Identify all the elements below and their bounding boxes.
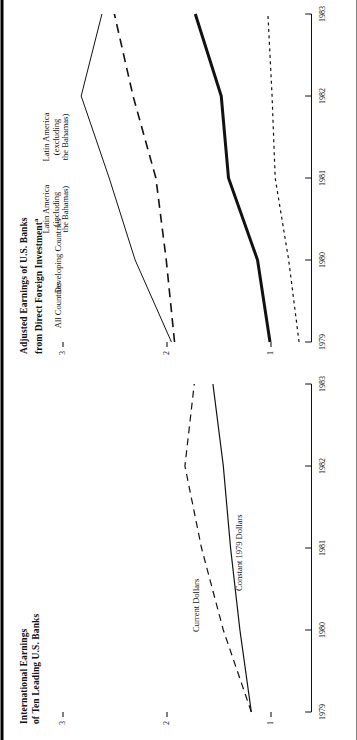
y-tick-mark — [62, 342, 63, 347]
figure-root: International Earnings of Ten Leading U.… — [0, 0, 357, 740]
x-tick-label: 1983 — [317, 376, 326, 392]
series-label-latin-america-including: Latin America (including the Bahamas) — [41, 179, 70, 239]
y-tick-label: 3 — [58, 351, 67, 355]
panel-adjusted-earnings: Adjusted Earnings of U.S. Banks from Dir… — [0, 0, 357, 370]
panel-right-title: Adjusted Earnings of U.S. Banks from Dir… — [18, 217, 44, 354]
panel-left-title: International Earnings of Ten Leading U.… — [18, 614, 41, 724]
x-tick-label: 1981 — [317, 170, 326, 186]
y-tick-mark — [270, 342, 271, 347]
plot-area-right — [62, 14, 311, 342]
y-axis-line — [62, 341, 311, 342]
x-tick-label: 1981 — [317, 540, 326, 556]
x-tick-label: 1979 — [317, 334, 326, 350]
y-tick-label: 2 — [161, 351, 170, 355]
x-tick-label: 1980 — [317, 252, 326, 268]
x-tick-label: 1979 — [317, 704, 326, 720]
y-tick-mark — [270, 712, 271, 717]
series-line-1 — [114, 14, 174, 342]
panel-international-earnings: International Earnings of Ten Leading U.… — [0, 370, 357, 740]
x-tick-label: 1982 — [317, 458, 326, 474]
x-tick-label: 1983 — [317, 6, 326, 22]
panel-right-title-text: Adjusted Earnings of U.S. Banks from Dir… — [18, 217, 43, 354]
series-line-0 — [81, 14, 171, 342]
series-label-constant-dollars: Constant 1979 Dollars — [234, 514, 244, 591]
y-tick-label: 2 — [161, 721, 170, 725]
panel-right-title-footnote-marker: a — [31, 218, 39, 222]
series-line-1 — [212, 384, 250, 712]
series-line-3 — [267, 14, 298, 342]
y-tick-label: 1 — [265, 721, 274, 725]
y-tick-label: 3 — [58, 721, 67, 725]
series-label-current-dollars: Current Dollars — [191, 579, 201, 632]
plot-area-left — [62, 384, 311, 712]
y-tick-mark — [166, 342, 167, 347]
y-axis-line — [62, 711, 311, 712]
chart-right — [62, 14, 311, 342]
x-tick-label: 1982 — [317, 88, 326, 104]
chart-left — [62, 384, 311, 712]
y-tick-mark — [166, 712, 167, 717]
x-tick-label: 1980 — [317, 622, 326, 638]
y-tick-mark — [62, 712, 63, 717]
series-label-latin-america-excluding: Latin America (excluding the Bahamas) — [41, 107, 70, 167]
series-line-2 — [195, 14, 270, 342]
y-tick-label: 1 — [265, 351, 274, 355]
